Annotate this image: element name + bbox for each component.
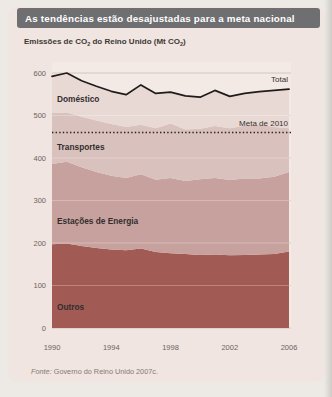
x-tick-label: 1994 — [96, 343, 126, 352]
line-label-meta-2010: Meta de 2010 — [218, 119, 288, 128]
book-figure-page: { "page": { "title": "As tendências estã… — [0, 0, 332, 397]
source-text: Governo do Reino Unido 2007c. — [52, 367, 158, 376]
y-tick-label: 0 — [16, 324, 46, 333]
band-label-outros: Outros — [57, 302, 84, 312]
y-tick-label: 500 — [16, 111, 46, 120]
band-label-energia: Estações de Energia — [57, 216, 138, 226]
x-tick-label: 1990 — [37, 343, 67, 352]
y-tick-label: 300 — [16, 196, 46, 205]
band-label-transportes: Transportes — [57, 142, 105, 152]
y-tick-label: 100 — [16, 281, 46, 290]
emissions-stacked-area-chart — [0, 0, 332, 397]
y-tick-label: 200 — [16, 239, 46, 248]
x-tick-label: 2006 — [274, 343, 304, 352]
y-tick-label: 400 — [16, 154, 46, 163]
x-tick-label: 1998 — [156, 343, 186, 352]
line-label-total: Total — [248, 75, 288, 84]
source-note: Fonte: Governo do Reino Unido 2007c. — [31, 367, 158, 376]
y-tick-label: 600 — [16, 69, 46, 78]
source-label: Fonte: — [31, 367, 52, 376]
band-label-domestico: Doméstico — [57, 94, 99, 104]
x-tick-label: 2002 — [215, 343, 245, 352]
